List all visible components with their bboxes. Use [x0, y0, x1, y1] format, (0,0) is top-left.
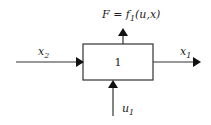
arrowhead-icon — [193, 57, 201, 67]
label-x2: x2 — [38, 45, 49, 60]
label-u1: u1 — [122, 102, 134, 117]
input-arrow-u1 — [108, 80, 118, 116]
output-arrow-x1 — [153, 57, 201, 67]
arrowhead-icon — [108, 80, 118, 88]
block-label: 1 — [115, 56, 122, 69]
block-diagram: 1 x2 x1 F = f1(u,x) u1 — [0, 0, 211, 125]
label-f: F = f1(u,x) — [101, 8, 160, 23]
label-x1: x1 — [180, 45, 191, 60]
arrowhead-icon — [118, 28, 128, 36]
input-arrow-x2 — [16, 57, 84, 67]
output-arrow-f — [118, 28, 128, 44]
